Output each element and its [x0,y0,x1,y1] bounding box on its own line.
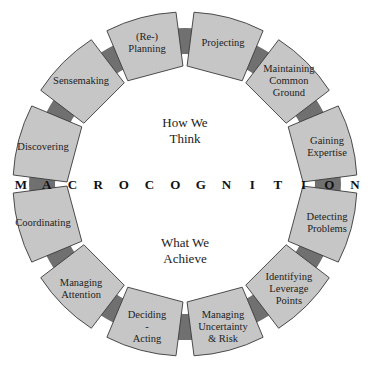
how-we-think-line1: How We [162,115,208,130]
macro-letter: T [274,177,283,192]
segment-label: Leverage [269,283,308,294]
segment-label: Discovering [17,141,69,152]
macro-letter: R [93,177,103,192]
segment-label: Sensemaking [53,75,110,86]
segment-label: Projecting [201,37,245,48]
what-we-achieve-line2: Achieve [163,251,207,266]
segment-label: Identifying [266,271,313,282]
segment-label: Maintaining [263,63,315,74]
segment-label: Coordinating [15,217,71,228]
macro-letter: C [145,177,154,192]
macro-letter: N [350,177,360,192]
segment-label: Common [269,75,309,86]
macro-letter: N [222,177,232,192]
segment-label: Detecting [307,211,349,222]
segment-label: Problems [307,223,347,234]
segment-label: Expertise [307,147,347,158]
segment-label: Deciding [128,309,167,320]
segment-label: Acting [133,333,162,344]
segment-label: Attention [61,289,101,300]
how-we-think-line2: Think [169,131,201,146]
what-we-achieve-line1: What We [161,235,209,250]
macro-letter: M [15,177,27,192]
segment-label: Planning [128,43,166,54]
segment-label: Ground [273,87,306,98]
macro-letter: O [324,177,334,192]
macro-letter: O [170,177,180,192]
segment-label: Points [276,295,302,306]
macro-letter: G [196,177,206,192]
segment-label: (Re-) [136,31,159,43]
segment-label: - [145,321,149,332]
macro-letter: O [119,177,129,192]
macro-letter: C [68,177,77,192]
segment-label: Uncertainty [198,321,248,332]
segment-label: Managing [60,277,103,288]
macro-letter: A [42,177,52,192]
macro-letter: I [250,177,255,192]
macrocognition-ring-diagram: ProjectingMaintainingCommonGroundGaining… [0,0,370,369]
segment-label: & Risk [208,333,239,344]
macro-letter: I [301,177,306,192]
segment-label: Gaining [310,135,345,146]
segment-label: Managing [202,309,245,320]
